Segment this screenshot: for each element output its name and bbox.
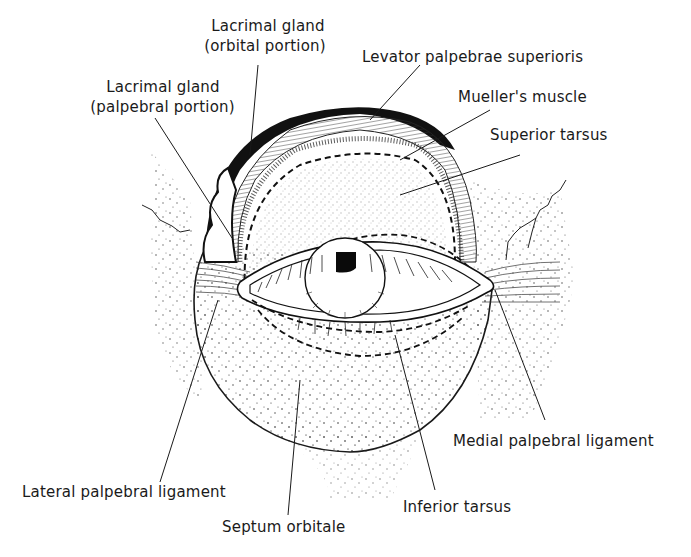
- label-superior-tarsus: Superior tarsus: [490, 126, 608, 144]
- label-lacrimal-orbital-line1: Lacrimal gland: [198, 17, 338, 35]
- label-lacrimal-palpebral-line1: Lacrimal gland: [88, 78, 238, 96]
- label-muellers-muscle: Mueller's muscle: [458, 88, 587, 106]
- label-lacrimal-orbital-line2: (orbital portion): [190, 37, 340, 55]
- label-lacrimal-palpebral-line2: (palpebral portion): [80, 98, 245, 116]
- eyelid-anatomy-diagram: Lacrimal gland (orbital portion) Lacrima…: [0, 0, 691, 557]
- label-septum-orbitale: Septum orbitale: [222, 518, 346, 536]
- label-levator-palpebrae-superioris: Levator palpebrae superioris: [362, 48, 583, 66]
- label-inferior-tarsus: Inferior tarsus: [403, 498, 511, 516]
- iris: [305, 238, 385, 318]
- label-lateral-palpebral-ligament: Lateral palpebral ligament: [22, 483, 226, 501]
- pupil: [336, 252, 356, 273]
- label-medial-palpebral-ligament: Medial palpebral ligament: [453, 432, 654, 450]
- lacrimal-gland-lobes: [204, 168, 236, 262]
